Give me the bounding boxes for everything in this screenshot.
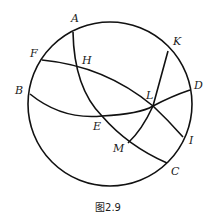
label-H: H [81, 54, 92, 67]
spherical-geometry-figure: A K F B D I C H L E M 图2.9 [0, 0, 215, 220]
label-D: D [193, 79, 203, 92]
label-K: K [172, 35, 182, 48]
label-A: A [70, 12, 79, 25]
figure-caption: 图2.9 [95, 202, 121, 213]
label-E: E [92, 120, 101, 133]
label-C: C [171, 165, 180, 178]
label-L: L [145, 89, 153, 102]
label-I: I [188, 134, 194, 147]
label-F: F [29, 47, 38, 60]
label-B: B [14, 84, 23, 97]
label-M: M [112, 142, 125, 155]
arc-BELD [30, 90, 190, 117]
great-circle-boundary [28, 22, 192, 186]
